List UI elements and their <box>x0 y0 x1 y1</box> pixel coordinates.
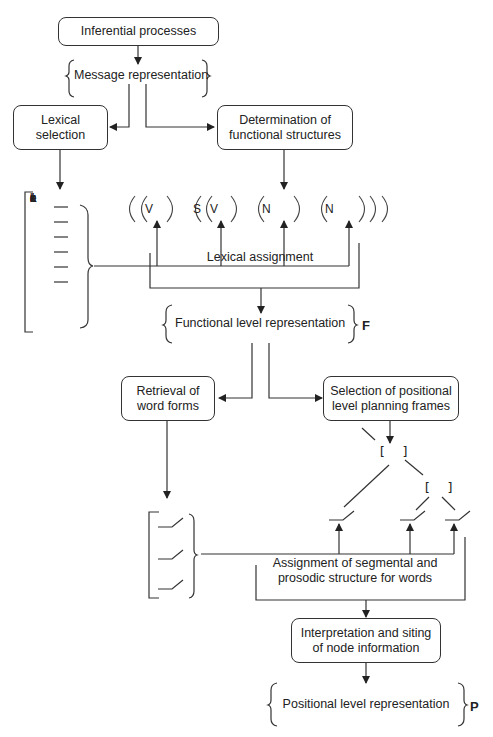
lexical-assignment-label: Lexical assignment <box>205 250 315 265</box>
interpretation-line2: of node information <box>312 641 419 656</box>
lexical-selection-line2: selection <box>36 128 85 143</box>
lexical-selection-box: Lexical selection <box>13 105 108 150</box>
slot-n2: N <box>325 202 334 216</box>
frame-bracket-lower: [ ] <box>423 480 454 495</box>
determination-line2: functional structures <box>229 128 341 143</box>
lexical-selection-line1: Lexical <box>41 113 80 128</box>
letter: t <box>27 193 39 204</box>
interpretation-box: Interpretation and siting of node inform… <box>291 618 441 663</box>
slot-n1: N <box>262 202 271 216</box>
retrieval-line1: Retrieval of <box>136 384 199 399</box>
segmental-line1: Assignment of segmental and <box>265 556 445 571</box>
selection-frames-box: Selection of positional level planning f… <box>323 376 459 421</box>
frame-bracket-upper: [ ] <box>378 444 409 459</box>
slot-v2: V <box>210 202 218 216</box>
interpretation-line1: Interpretation and siting <box>301 626 432 641</box>
functional-level-tag: F <box>362 318 370 333</box>
inferential-processes-box: Inferential processes <box>58 17 219 46</box>
selection-frames-line1: Selection of positional <box>330 384 452 399</box>
positional-level-tag: P <box>470 699 479 714</box>
slot-s: S <box>193 202 201 216</box>
segmental-assignment-label: Assignment of segmental and prosodic str… <box>265 556 445 586</box>
inferential-processes-label: Inferential processes <box>81 24 196 39</box>
determination-box: Determination of functional structures <box>217 105 353 150</box>
retrieval-line2: word forms <box>137 399 199 414</box>
selection-frames-line2: level planning frames <box>332 399 450 414</box>
functional-level-representation: Functional level representation <box>175 316 345 331</box>
retrieval-box: Retrieval of word forms <box>121 376 215 421</box>
slot-v1: V <box>145 202 153 216</box>
message-representation: Message representation <box>74 68 202 83</box>
determination-line1: Determination of <box>239 113 331 128</box>
segmental-line2: prosodic structure for words <box>265 571 445 586</box>
positional-level-representation: Positional level representation <box>280 697 452 712</box>
